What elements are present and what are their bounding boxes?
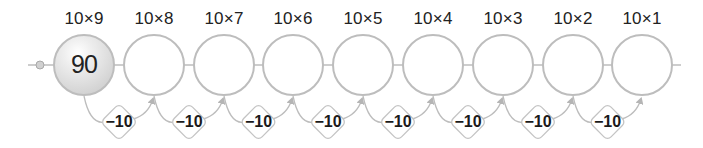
- transition-label: −10: [378, 113, 418, 131]
- step-label: 10×6: [263, 9, 323, 29]
- transition-label: −10: [239, 113, 279, 131]
- answer-circle[interactable]: [124, 35, 184, 95]
- transition-label: −10: [518, 113, 558, 131]
- transition-label: −10: [169, 113, 209, 131]
- transition-label: −10: [588, 113, 628, 131]
- answer-circle[interactable]: [263, 35, 323, 95]
- transition-label: −10: [308, 113, 348, 131]
- step-label: 10×5: [333, 9, 393, 29]
- answer-circle[interactable]: [194, 35, 254, 95]
- answer-circle[interactable]: [403, 35, 463, 95]
- step-label: 10×8: [124, 9, 184, 29]
- step-label: 10×4: [403, 9, 463, 29]
- answer-circle[interactable]: [612, 35, 672, 95]
- step-label: 10×9: [54, 9, 114, 29]
- step-value: 90: [54, 50, 114, 79]
- answer-circle[interactable]: [473, 35, 533, 95]
- step-label: 10×2: [543, 9, 603, 29]
- step-label: 10×3: [473, 9, 533, 29]
- answer-circle[interactable]: [333, 35, 393, 95]
- step-label: 10×1: [612, 9, 672, 29]
- answer-circle[interactable]: [543, 35, 603, 95]
- start-dot-icon: [36, 61, 44, 69]
- step-label: 10×7: [194, 9, 254, 29]
- transition-label: −10: [99, 113, 139, 131]
- transition-label: −10: [448, 113, 488, 131]
- number-sequence-diagram: 10×99010×810×710×610×510×410×310×210×1−1…: [0, 0, 703, 148]
